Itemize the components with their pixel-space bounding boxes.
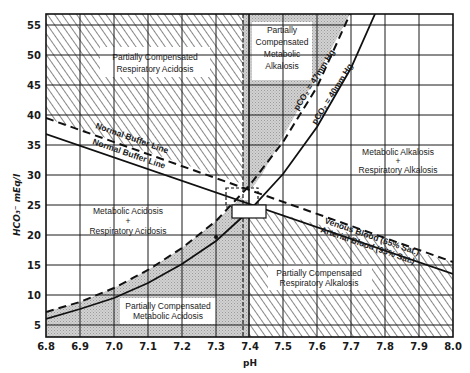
svg-text:7.7: 7.7 bbox=[342, 341, 360, 352]
svg-text:25: 25 bbox=[27, 200, 41, 211]
svg-text:35: 35 bbox=[27, 140, 41, 151]
label-met-alkalosis-line1: Partially bbox=[267, 25, 298, 35]
label-resp-acidosis-line2: Respiratory Acidosis bbox=[116, 64, 193, 74]
label-met-acidosis-line1: Partially Compensated bbox=[125, 301, 211, 311]
x-axis-ticks: 6.8 6.9 7.0 7.1 7.2 7.3 7.4 7.5 7.6 7.7 … bbox=[37, 341, 462, 352]
svg-text:10: 10 bbox=[27, 290, 41, 301]
y-axis-ticks: 5 10 15 20 25 30 35 40 45 50 55 bbox=[27, 20, 41, 331]
arterial-normal-box bbox=[232, 205, 266, 218]
svg-text:6.9: 6.9 bbox=[71, 341, 89, 352]
data-point-marker bbox=[214, 235, 218, 239]
svg-text:7.5: 7.5 bbox=[274, 341, 292, 352]
svg-text:7.0: 7.0 bbox=[105, 341, 123, 352]
label-mixed-acidosis-line1: Metabolic Acidosis bbox=[93, 206, 163, 216]
label-met-alkalosis-line4: Alkalosis bbox=[265, 61, 299, 71]
svg-text:7.6: 7.6 bbox=[308, 341, 326, 352]
svg-text:7.4: 7.4 bbox=[241, 341, 259, 352]
label-met-acidosis-line2: Metabolic Acidosis bbox=[133, 311, 203, 321]
svg-text:30: 30 bbox=[27, 170, 41, 181]
svg-text:20: 20 bbox=[27, 230, 41, 241]
label-met-alkalosis-line3: Metabolic bbox=[264, 49, 301, 59]
label-resp-alkalosis-line2: Respiratory Alkalosis bbox=[280, 278, 359, 288]
label-met-alkalosis-line2: Compensated bbox=[256, 37, 309, 47]
svg-text:15: 15 bbox=[27, 260, 41, 271]
svg-text:40: 40 bbox=[27, 110, 41, 121]
acid-base-nomogram: Partially Compensated Respiratory Acidos… bbox=[0, 0, 470, 373]
svg-text:6.8: 6.8 bbox=[37, 341, 55, 352]
svg-text:45: 45 bbox=[27, 80, 41, 91]
label-resp-acidosis-line1: Partially Compensated bbox=[112, 52, 198, 62]
svg-text:7.3: 7.3 bbox=[207, 341, 225, 352]
svg-text:7.2: 7.2 bbox=[173, 341, 191, 352]
label-mixed-acidosis-line3: Respiratory Acidosis bbox=[89, 226, 166, 236]
svg-text:8.0: 8.0 bbox=[444, 341, 462, 352]
x-axis-title: pH bbox=[243, 358, 257, 368]
label-mixed-alkalosis-line3: Respiratory Alkalosis bbox=[359, 165, 438, 175]
svg-text:55: 55 bbox=[27, 20, 41, 31]
label-mixed-acidosis-line2: + bbox=[126, 216, 131, 226]
region-stipple-strip bbox=[243, 200, 249, 337]
svg-text:7.8: 7.8 bbox=[376, 341, 394, 352]
svg-text:5: 5 bbox=[34, 320, 41, 331]
label-resp-alkalosis-line1: Partially Compensated bbox=[276, 268, 362, 278]
svg-text:7.1: 7.1 bbox=[139, 341, 157, 352]
svg-text:7.9: 7.9 bbox=[410, 341, 428, 352]
svg-text:50: 50 bbox=[27, 50, 41, 61]
y-axis-title: HCO₃⁻ mEq/l bbox=[12, 173, 22, 236]
